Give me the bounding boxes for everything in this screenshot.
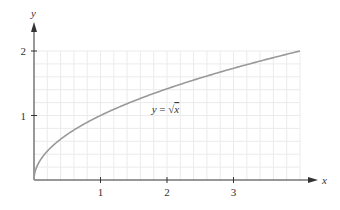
grid-lines — [34, 51, 300, 180]
curve-label-x: x — [173, 103, 179, 115]
x-axis-arrow-icon — [308, 177, 318, 183]
x-tick-label: 1 — [98, 186, 104, 198]
y-tick-label: 2 — [21, 45, 27, 57]
axes: x y — [30, 7, 327, 186]
curve-label-equals: = — [157, 103, 169, 115]
x-axis-label: x — [321, 174, 327, 186]
tick-marks: 12312 — [21, 45, 237, 198]
curve-label: y = √x — [151, 103, 180, 115]
sqrt-function-chart: x y 12312 y = √x — [0, 0, 340, 210]
y-axis-arrow-icon — [31, 22, 37, 32]
y-axis-label: y — [30, 7, 36, 19]
x-tick-label: 2 — [164, 186, 170, 198]
y-tick-label: 1 — [21, 110, 27, 122]
x-tick-label: 3 — [231, 186, 237, 198]
